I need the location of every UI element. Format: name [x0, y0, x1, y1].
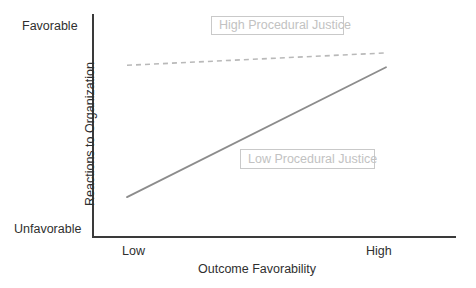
plot-area — [0, 0, 476, 288]
annotation-high-procedural-justice: High Procedural Justice — [211, 16, 344, 35]
x-axis-title: Outcome Favorability — [198, 263, 316, 276]
y-axis-label-unfavorable: Unfavorable — [14, 223, 81, 236]
x-axis-label-low: Low — [122, 245, 145, 258]
annotation-high-label: High Procedural Justice — [219, 19, 351, 32]
chart-container: Favorable Unfavorable Reactions to Organ… — [0, 0, 476, 288]
line-high-procedural-justice — [127, 53, 386, 65]
x-axis-line — [92, 236, 456, 238]
annotation-low-procedural-justice: Low Procedural Justice — [240, 149, 375, 169]
annotation-low-label: Low Procedural Justice — [248, 153, 377, 166]
x-axis-label-high: High — [366, 245, 392, 258]
y-axis-title: Reactions to Organization — [84, 62, 97, 206]
line-low-procedural-justice — [127, 67, 386, 197]
y-axis-label-favorable: Favorable — [22, 20, 78, 33]
